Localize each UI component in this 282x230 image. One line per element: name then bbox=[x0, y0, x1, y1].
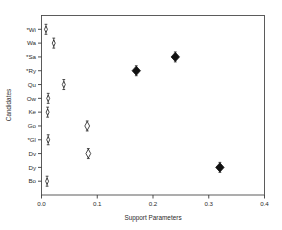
y-tick-label: Bo bbox=[28, 177, 36, 184]
x-tick-label: 0.2 bbox=[149, 200, 158, 207]
x-axis-title: Support Parameters bbox=[124, 214, 181, 222]
y-tick-label: Dv bbox=[28, 150, 36, 157]
y-tick-label: Qu bbox=[28, 81, 37, 88]
y-tick-label: *Sa bbox=[26, 53, 37, 60]
y-tick-label: Ow bbox=[27, 95, 37, 102]
y-tick-label: *Gl bbox=[27, 136, 36, 143]
y-tick-label: Wa bbox=[27, 39, 37, 46]
y-tick-label: *Wi bbox=[26, 26, 36, 33]
x-tick-label: 0.3 bbox=[204, 200, 213, 207]
chart-background bbox=[0, 0, 282, 230]
y-tick-label: *Ry bbox=[26, 67, 37, 74]
y-tick-label: Ke bbox=[28, 108, 36, 115]
y-tick-label: Go bbox=[28, 122, 37, 129]
y-axis-title: Candidates bbox=[5, 89, 12, 121]
support-parameters-scatter-plot: 0.00.10.20.30.4 *WiWa*Sa*RyQuOwKeGo*GlDv… bbox=[0, 0, 282, 230]
chart-container: 0.00.10.20.30.4 *WiWa*Sa*RyQuOwKeGo*GlDv… bbox=[0, 0, 282, 230]
x-tick-label: 0.1 bbox=[93, 200, 102, 207]
y-tick-label: Dy bbox=[28, 164, 36, 171]
x-tick-label: 0.4 bbox=[260, 200, 269, 207]
x-tick-label: 0.0 bbox=[37, 200, 46, 207]
